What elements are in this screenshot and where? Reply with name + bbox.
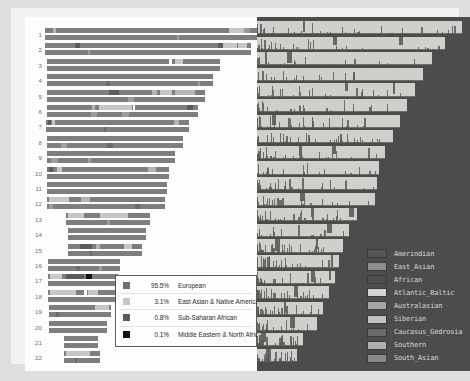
composition-spike: [369, 171, 371, 175]
composition-spike: [277, 111, 279, 112]
composition-spike: [300, 263, 301, 268]
composition-spike: [284, 245, 285, 253]
population-legend-item[interactable]: Amerindian: [367, 247, 470, 260]
composition-spike: [294, 358, 295, 362]
population-legend-item[interactable]: Southern: [367, 339, 470, 352]
ancestry-legend-item[interactable]: 95.5%European: [120, 278, 252, 294]
composition-spike: [322, 218, 324, 221]
composition-spike: [327, 32, 328, 34]
composition-spike: [270, 310, 271, 315]
karyogram-row: 4: [25, 74, 257, 89]
ancestry-segment: [86, 274, 92, 279]
ancestry-legend-item[interactable]: 0.8%Sub-Saharan African: [120, 310, 252, 326]
baseline: [257, 220, 357, 221]
composition-spike: [267, 169, 268, 175]
composition-spike: [333, 72, 334, 81]
composition-spike: [292, 33, 293, 34]
ancestry-segment: [88, 158, 91, 163]
composition-spike: [340, 139, 341, 143]
karyogram-row: 16: [25, 259, 257, 274]
composition-spike: [317, 64, 318, 65]
chromosome-label: 4: [25, 76, 42, 85]
composition-spike: [408, 80, 409, 81]
composition-spike: [267, 126, 268, 128]
baseline: [257, 174, 379, 175]
composition-spike: [296, 75, 297, 81]
composition-spike: [349, 201, 350, 206]
composition-spike: [319, 172, 320, 175]
composition-spike: [283, 174, 284, 175]
karyogram-row: 3: [25, 59, 257, 74]
ancestry-segment: [238, 43, 247, 48]
composition-spike: [259, 80, 260, 81]
chromosome-pair: [47, 105, 198, 120]
ancestry-segment: [122, 112, 129, 117]
composition-spike: [271, 95, 272, 97]
haplotype-bar: [47, 174, 169, 179]
composition-spike: [270, 187, 272, 190]
composition-spike: [366, 158, 367, 159]
haplotype-bar: [47, 66, 220, 71]
composition-spike: [360, 137, 361, 143]
ancestry-segment: [48, 120, 51, 125]
population-legend-item[interactable]: African: [367, 273, 470, 286]
composition-spike: [448, 30, 449, 34]
composition-spike: [314, 33, 315, 34]
composition-spike: [389, 142, 390, 143]
composition-spike: [268, 49, 269, 50]
composition-spike: [342, 118, 343, 128]
ancestry-legend-item[interactable]: 3.1%East Asian & Native American: [120, 294, 252, 310]
composition-spike: [292, 360, 293, 362]
composition-spike: [257, 262, 258, 268]
haplotype-bar: [45, 50, 251, 55]
composition-spike: [393, 83, 395, 94]
composition-spike: [257, 330, 258, 331]
composition-spike: [452, 26, 453, 34]
population-label: African: [394, 276, 422, 284]
haplotype-bar: [49, 321, 107, 326]
composition-spike: [294, 109, 295, 112]
chromosome-pair: [64, 351, 100, 366]
composition-spike: [309, 290, 310, 299]
composition-spike: [280, 133, 281, 143]
population-legend-item[interactable]: Caucasus_Gedrosia: [367, 326, 470, 339]
karyogram-row: 14: [25, 228, 257, 243]
composition-spike: [270, 116, 271, 128]
composition-spike: [295, 62, 296, 65]
composition-row: [257, 146, 385, 159]
composition-spike: [293, 214, 295, 221]
population-legend-item[interactable]: Siberian: [367, 312, 470, 325]
composition-spike: [281, 293, 282, 299]
population-legend-item[interactable]: Atlantic_Baltic: [367, 286, 470, 299]
composition-spike: [376, 154, 377, 159]
population-legend-item[interactable]: South_Asian: [367, 352, 470, 365]
composition-spike: [342, 141, 343, 143]
haplotype-bar: [47, 204, 165, 209]
composition-spike: [275, 279, 276, 284]
ancestry-segment: [49, 204, 53, 209]
composition-spike: [412, 80, 413, 81]
composition-spike: [257, 122, 258, 128]
composition-spike: [292, 264, 293, 268]
composition-spike: [292, 174, 293, 175]
composition-spike: [297, 336, 298, 346]
composition-spike: [272, 311, 273, 315]
composition-spike: [264, 204, 265, 206]
composition-spike: [311, 305, 312, 315]
composition-spike: [258, 295, 259, 299]
ancestry-legend-item[interactable]: 0.1%Middle Eastern & North African: [120, 327, 252, 343]
composition-spike: [272, 247, 273, 253]
population-label: Atlantic_Baltic: [394, 289, 454, 297]
composition-spike: [263, 324, 264, 331]
composition-spike: [262, 64, 263, 65]
ancestry-label: Middle Eastern & North African: [178, 331, 265, 338]
population-legend-item[interactable]: Australasian: [367, 299, 470, 312]
composition-spike: [270, 156, 272, 159]
composition-spike: [348, 141, 349, 143]
population-legend-item[interactable]: East_Asian: [367, 260, 470, 273]
composition-spike: [280, 219, 281, 221]
composition-spike: [304, 108, 305, 112]
composition-spike: [337, 189, 338, 190]
composition-row: [257, 333, 303, 346]
composition-spike: [334, 140, 335, 143]
